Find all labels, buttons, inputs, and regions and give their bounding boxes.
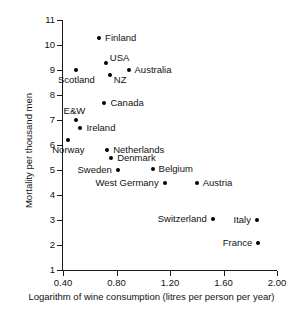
y-tick-label: 8 [33,90,55,100]
data-point [74,118,78,122]
y-tick-mark [57,270,62,271]
x-axis-title: Logarithm of wine consumption (litres pe… [0,291,303,302]
x-tick-mark [224,271,225,276]
x-tick-mark [63,271,64,276]
y-tick-mark [57,45,62,46]
y-tick-label: 1 [33,265,55,275]
x-tick-label: 1.20 [150,278,190,288]
y-tick-label: 7 [33,115,55,125]
data-point [97,36,101,40]
data-point-label: Belgium [159,164,193,174]
y-axis-title: Mortality per thousand men [23,26,34,276]
y-tick-mark [57,95,62,96]
y-tick-mark [57,195,62,196]
y-tick-mark [57,120,62,121]
x-tick-mark [277,271,278,276]
data-point-label: France [223,238,253,248]
data-point-label: NZ [114,75,127,85]
data-point [74,68,78,72]
data-point-label: Norway [52,145,84,155]
data-point-label: Scotland [58,75,95,85]
data-point-label: Ireland [86,123,115,133]
data-point-label: Finland [105,33,136,43]
y-tick-label: 11 [33,15,55,25]
data-point [151,167,155,171]
x-tick-mark [117,271,118,276]
data-point [211,217,215,221]
x-tick-label: 2.00 [257,278,297,288]
x-tick-label: 1.60 [204,278,244,288]
y-tick-mark [57,220,62,221]
data-point [256,241,260,245]
y-tick-label: 5 [33,165,55,175]
data-point [109,156,113,160]
data-point-label: Denmark [117,153,156,163]
data-point [195,181,199,185]
data-point [104,61,108,65]
y-tick-mark [57,170,62,171]
y-tick-label: 4 [33,190,55,200]
data-point [108,73,112,77]
data-point-label: Switzerland [158,214,207,224]
y-tick-label: 9 [33,65,55,75]
data-point [163,181,167,185]
data-point-label: West Germany [95,178,158,188]
x-tick-label: 0.80 [97,278,137,288]
data-point [116,168,120,172]
y-tick-mark [57,20,62,21]
x-tick-label: 0.40 [43,278,83,288]
data-point [102,101,106,105]
y-tick-mark [57,245,62,246]
y-tick-label: 2 [33,240,55,250]
data-point-label: Australia [135,65,172,75]
data-point [127,68,131,72]
data-point [78,126,82,130]
y-tick-mark [57,70,62,71]
data-point-label: Italy [234,215,251,225]
y-tick-label: 10 [33,40,55,50]
data-point [66,138,70,142]
data-point-label: Sweden [77,165,111,175]
data-point-label: Canada [110,98,143,108]
data-point [255,218,259,222]
x-tick-mark [170,271,171,276]
y-tick-label: 3 [33,215,55,225]
data-point-label: E&W [64,106,86,116]
scatter-chart: 1234567891011 0.400.801.201.602.00 Finla… [0,0,303,314]
data-point-label: Austria [203,178,233,188]
data-point [105,148,109,152]
data-point-label: USA [110,53,130,63]
